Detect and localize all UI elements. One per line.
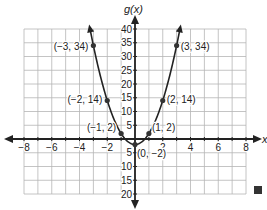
point-label: (−3, 34) — [54, 41, 89, 52]
x-tick-label: −2 — [102, 142, 114, 153]
y-axis-down-arrow-icon — [131, 200, 139, 209]
x-axis-title: x — [261, 133, 267, 145]
data-point — [105, 98, 110, 103]
y-tick-label: 20 — [121, 79, 133, 90]
y-tick-label: 10 — [121, 161, 133, 172]
end-of-solution-square-icon — [254, 186, 262, 194]
point-label: (0, −2) — [137, 148, 166, 159]
y-tick-label: 5 — [126, 120, 132, 131]
point-label: (2, 14) — [167, 94, 196, 105]
point-label: (3, 34) — [181, 41, 210, 52]
data-point — [132, 142, 137, 147]
x-tick-label: −8 — [18, 142, 30, 153]
y-axis-title: g(x) — [124, 3, 143, 15]
x-tick-label: −6 — [46, 142, 58, 153]
y-tick-label: 20 — [121, 189, 133, 200]
point-label: (−1, 2) — [87, 122, 116, 133]
parabola-graph: −8−6−4−224682015105510152025303540 (−3, … — [0, 0, 267, 210]
y-tick-label: 5 — [126, 147, 132, 158]
x-tick-label: −4 — [74, 142, 86, 153]
x-axis-left-arrow-icon — [4, 135, 13, 143]
y-tick-label: 25 — [121, 65, 133, 76]
data-point — [91, 43, 96, 48]
x-tick-label: 6 — [215, 142, 221, 153]
y-tick-label: 30 — [121, 51, 133, 62]
x-tick-label: 8 — [243, 142, 249, 153]
x-tick-label: 4 — [188, 142, 194, 153]
x-axis-right-arrow-icon — [253, 135, 262, 143]
y-tick-label: 40 — [121, 24, 133, 35]
point-label: (−2, 14) — [68, 94, 103, 105]
point-label: (1, 2) — [152, 122, 175, 133]
data-point — [174, 43, 179, 48]
y-tick-label: 15 — [121, 175, 133, 186]
data-point — [119, 131, 124, 136]
data-point — [146, 131, 151, 136]
data-point — [160, 98, 165, 103]
y-axis-up-arrow-icon — [131, 15, 139, 24]
y-tick-label: 15 — [121, 92, 133, 103]
y-tick-label: 10 — [121, 106, 133, 117]
y-tick-label: 35 — [121, 37, 133, 48]
